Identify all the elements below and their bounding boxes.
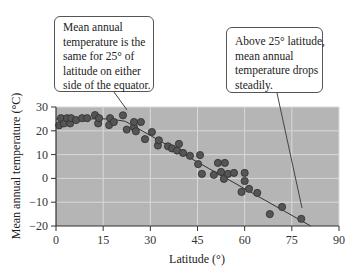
callout-line: temperature drops	[235, 63, 316, 78]
y-tick-label: 10	[36, 148, 48, 162]
data-point	[210, 171, 217, 178]
x-axis-title: Latitude (°)	[169, 252, 225, 266]
x-tick-label: 0	[53, 233, 59, 247]
data-point	[278, 203, 285, 210]
data-point	[123, 126, 130, 133]
data-point	[137, 118, 144, 125]
callout-line: mean annual	[235, 49, 316, 64]
x-tick-label: 60	[239, 233, 251, 247]
y-tick-label: 0	[42, 171, 48, 185]
data-point	[198, 170, 205, 177]
x-tick-label: 15	[97, 233, 109, 247]
y-tick-label: −20	[29, 219, 48, 233]
left-annotation-callout: Mean annual temperature is the same for …	[54, 16, 154, 92]
callout-line: side of the equator.	[63, 78, 147, 93]
data-point	[238, 188, 245, 195]
data-point	[245, 185, 252, 192]
data-point	[195, 161, 202, 168]
data-point	[221, 159, 228, 166]
data-point	[130, 118, 137, 125]
y-tick-label: 20	[36, 124, 48, 138]
data-point	[196, 151, 203, 158]
data-point	[266, 211, 273, 218]
data-point	[110, 118, 117, 125]
data-point	[155, 137, 162, 144]
x-tick-label: 90	[333, 233, 345, 247]
y-tick-label: −10	[29, 195, 48, 209]
data-point	[230, 169, 237, 176]
x-tick-label: 45	[192, 233, 204, 247]
callout-line: same for 25° of	[63, 49, 147, 64]
data-point	[95, 115, 102, 122]
y-axis-title: Mean annual temperature (°C)	[9, 93, 23, 239]
data-point	[217, 168, 224, 175]
data-point	[132, 128, 139, 135]
data-point	[179, 149, 186, 156]
callout-line: steadily.	[235, 78, 316, 93]
callout-line: latitude on either	[63, 64, 147, 79]
data-point	[175, 140, 182, 147]
callout-line: Above 25° latitude,	[235, 34, 316, 49]
right-annotation-callout: Above 25° latitude, mean annual temperat…	[226, 27, 323, 93]
data-point	[119, 112, 126, 119]
data-point	[298, 215, 305, 222]
data-point	[241, 169, 248, 176]
data-point	[241, 177, 248, 184]
callout-line: temperature is the	[63, 35, 147, 50]
data-point	[254, 189, 261, 196]
data-point	[141, 136, 148, 143]
x-tick-label: 30	[144, 233, 156, 247]
y-tick-label: 30	[36, 100, 48, 114]
data-point	[186, 152, 193, 159]
data-point	[214, 159, 221, 166]
callout-line: Mean annual	[63, 20, 147, 35]
data-point	[148, 128, 155, 135]
x-tick-label: 75	[286, 233, 298, 247]
data-point	[84, 115, 91, 122]
